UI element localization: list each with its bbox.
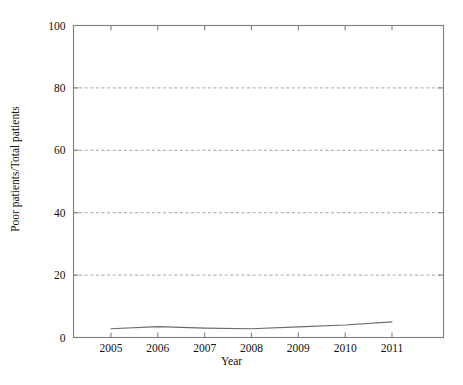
x-tick-label-2008: 2008 [240,342,263,354]
data-series-group [111,322,392,329]
plot-frame [74,26,444,338]
y-tick-label-20: 20 [54,269,66,281]
x-tick-label-2007: 2007 [193,342,216,354]
y-tick-label-40: 40 [54,207,66,219]
y-tick-label-100: 100 [48,20,66,32]
tick-marks-group [74,26,444,338]
axes-frame [74,26,444,338]
line-chart-plot: 020406080100 200520062007200820092010201… [0,0,463,385]
chart-figure: Poor patients/Total patients Year 020406… [0,0,463,385]
x-tick-label-2006: 2006 [146,342,169,354]
x-tick-label-2010: 2010 [334,342,357,354]
x-tick-label-2005: 2005 [99,342,122,354]
y-tick-label-60: 60 [54,144,66,156]
data-line-series-0 [111,322,392,329]
y-tick-label-0: 0 [60,332,66,344]
x-tick-label-2009: 2009 [287,342,310,354]
x-tick-label-2011: 2011 [381,342,404,354]
gridlines-group [74,88,444,275]
x-tick-labels-group: 2005200620072008200920102011 [99,342,403,354]
y-tick-label-80: 80 [54,82,66,94]
y-tick-labels-group: 020406080100 [48,20,66,344]
